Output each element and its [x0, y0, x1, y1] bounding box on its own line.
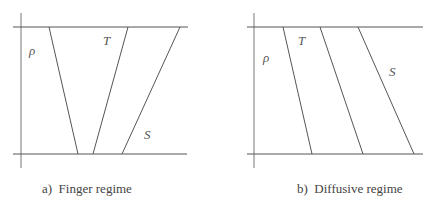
regime-diagram: ρ T S a) Finger regime ρ T S b) Diffusiv…	[0, 0, 430, 208]
salinity-profile-line	[122, 27, 180, 154]
caption-finger-regime: a) Finger regime	[42, 181, 132, 196]
panel-diffusive-regime: ρ T S b) Diffusive regime	[247, 13, 423, 196]
temperature-profile-line	[93, 27, 128, 154]
salinity-profile-line	[358, 27, 414, 154]
panel-finger-regime: ρ T S a) Finger regime	[13, 13, 188, 196]
rho-label: ρ	[28, 43, 35, 58]
salinity-label: S	[389, 64, 396, 79]
temperature-profile-line	[320, 27, 363, 154]
density-profile-line	[49, 27, 78, 154]
temperature-label: T	[103, 33, 111, 48]
rho-label: ρ	[262, 50, 269, 65]
temperature-label: T	[298, 33, 306, 48]
salinity-label: S	[144, 127, 151, 142]
caption-diffusive-regime: b) Diffusive regime	[297, 181, 403, 196]
